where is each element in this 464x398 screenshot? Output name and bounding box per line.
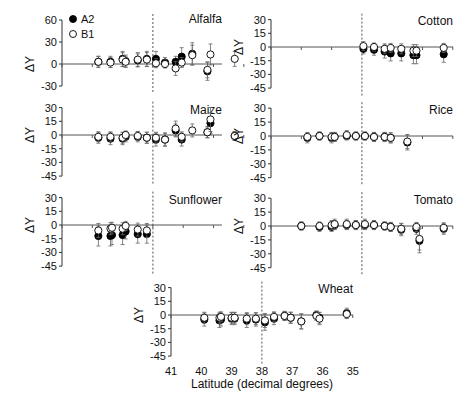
y-tick-label: 0 <box>160 309 166 321</box>
point-b1 <box>343 131 350 138</box>
point-b1 <box>108 224 115 231</box>
point-b1 <box>143 227 150 234</box>
legend-label: B1 <box>81 28 94 40</box>
point-b1 <box>316 222 323 229</box>
y-tick-label: 15 <box>45 205 57 217</box>
point-b1 <box>207 51 214 58</box>
panel-maize: 30150-15-30-45ΔYMaize <box>23 102 244 185</box>
point-b1 <box>122 58 129 65</box>
y-tick-label: -15 <box>41 143 57 155</box>
point-b1 <box>122 222 129 229</box>
point-b1 <box>172 65 179 72</box>
panel-rice: 30150-15-30-45ΔYRice <box>232 102 453 186</box>
point-b1 <box>201 314 208 321</box>
x-tick-label: 36 <box>316 365 328 377</box>
point-b1 <box>207 116 214 123</box>
point-b1 <box>178 133 185 140</box>
x-axis-label: Latitude (decimal degrees) <box>191 377 333 391</box>
point-b1 <box>172 125 179 132</box>
y-tick-label: 0 <box>260 220 266 232</box>
point-b1 <box>370 133 377 140</box>
point-b1 <box>298 222 305 229</box>
x-tick-label: 41 <box>165 365 177 377</box>
x-tick-label: 40 <box>195 365 207 377</box>
point-b1 <box>352 132 359 139</box>
point-b1 <box>343 221 350 228</box>
point-b1 <box>107 59 114 66</box>
point-b1 <box>161 60 168 67</box>
panel-title: Tomato <box>414 193 454 207</box>
point-b1 <box>370 43 377 50</box>
panel-title: Alfalfa <box>189 12 223 26</box>
point-b1 <box>316 315 323 322</box>
point-b1 <box>387 134 394 141</box>
point-b1 <box>143 134 150 141</box>
y-tick-label: 0 <box>51 129 57 141</box>
panel-title: Sunflower <box>169 193 222 207</box>
y-tick-label: 30 <box>254 192 266 204</box>
panel-title: Rice <box>429 103 453 117</box>
point-b1 <box>398 45 405 52</box>
legend-open-circle-icon <box>70 31 77 38</box>
y-axis-label: ΔY <box>232 128 246 144</box>
y-tick-label: 15 <box>45 115 57 127</box>
point-b1 <box>204 129 211 136</box>
y-axis-label: ΔY <box>132 307 146 323</box>
point-b1 <box>298 318 305 325</box>
y-tick-label: -45 <box>41 260 57 272</box>
point-b1 <box>360 42 367 49</box>
y-tick-label: 15 <box>254 206 266 218</box>
y-axis-label: ΔY <box>23 56 37 72</box>
y-tick-label: 15 <box>254 116 266 128</box>
y-axis-label: ΔY <box>23 127 37 143</box>
y-tick-label: -15 <box>250 144 266 156</box>
point-b1 <box>270 313 277 320</box>
point-b1 <box>231 55 238 62</box>
point-b1 <box>134 132 141 139</box>
panel-title: Wheat <box>318 282 353 296</box>
point-b1 <box>413 47 420 54</box>
y-tick-label: -45 <box>41 170 57 182</box>
y-tick-label: 0 <box>51 219 57 231</box>
y-axis-label: ΔY <box>23 217 37 233</box>
point-b1 <box>152 134 159 141</box>
y-tick-label: 0 <box>51 58 57 70</box>
y-tick-label: -45 <box>150 350 166 362</box>
legend-label: A2 <box>81 13 94 25</box>
point-b1 <box>134 226 141 233</box>
point-b1 <box>352 221 359 228</box>
point-b1 <box>398 225 405 232</box>
panel-cotton: 30150-15-30-45ΔYCotton <box>232 14 453 97</box>
y-tick-label: -30 <box>150 336 166 348</box>
y-tick-label: -15 <box>150 323 166 335</box>
point-b1 <box>122 131 129 138</box>
y-tick-label: -30 <box>41 246 57 258</box>
point-b1 <box>95 227 102 234</box>
panel-title: Maize <box>190 103 222 117</box>
x-tick-label: 39 <box>225 365 237 377</box>
point-b1 <box>331 221 338 228</box>
y-tick-label: -15 <box>250 234 266 246</box>
point-b1 <box>231 314 238 321</box>
x-tick-label: 37 <box>286 365 298 377</box>
y-tick-label: 15 <box>254 27 266 39</box>
point-b1 <box>413 223 420 230</box>
x-tick-label: 35 <box>347 365 359 377</box>
point-b1 <box>304 133 311 140</box>
panel-tomato: 30150-15-30-45ΔYTomato <box>232 192 453 276</box>
point-b1 <box>189 127 196 134</box>
x-tick-label: 38 <box>256 365 268 377</box>
y-tick-label: 30 <box>45 102 57 114</box>
panel-sunflower: 30150-15-30-45ΔYSunflower <box>23 192 244 275</box>
point-b1 <box>217 313 224 320</box>
point-b1 <box>243 315 250 322</box>
point-b1 <box>370 221 377 228</box>
point-b1 <box>361 221 368 228</box>
point-b1 <box>440 224 447 231</box>
y-tick-label: -45 <box>250 82 266 94</box>
point-b1 <box>316 132 323 139</box>
point-b1 <box>416 235 423 242</box>
point-b1 <box>204 66 211 73</box>
y-tick-label: -15 <box>250 55 266 67</box>
point-b1 <box>331 133 338 140</box>
